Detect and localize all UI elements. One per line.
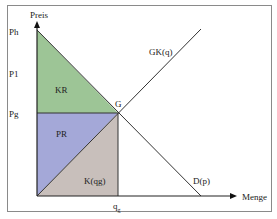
price-tick-ph: Ph bbox=[9, 28, 19, 37]
equilibrium-point-label: G bbox=[115, 100, 122, 109]
price-tick-p1: P1 bbox=[9, 70, 19, 79]
consumer-surplus-label: KR bbox=[55, 86, 68, 95]
supply-curve-label: GK(q) bbox=[149, 48, 173, 57]
x-axis-arrow-icon bbox=[230, 193, 237, 199]
cost-label: K(qg) bbox=[84, 177, 106, 186]
quantity-tick-sub: g bbox=[118, 207, 121, 213]
diagram-canvas bbox=[0, 0, 277, 219]
demand-curve-label: D(p) bbox=[193, 177, 210, 186]
x-axis-label: Menge bbox=[242, 193, 267, 202]
y-axis-arrow-icon bbox=[34, 21, 40, 28]
price-tick-pg: Pg bbox=[9, 110, 19, 119]
y-axis-label: Preis bbox=[30, 11, 48, 20]
producer-surplus-label: PR bbox=[56, 130, 67, 139]
quantity-tick-qg: qg bbox=[113, 202, 121, 213]
